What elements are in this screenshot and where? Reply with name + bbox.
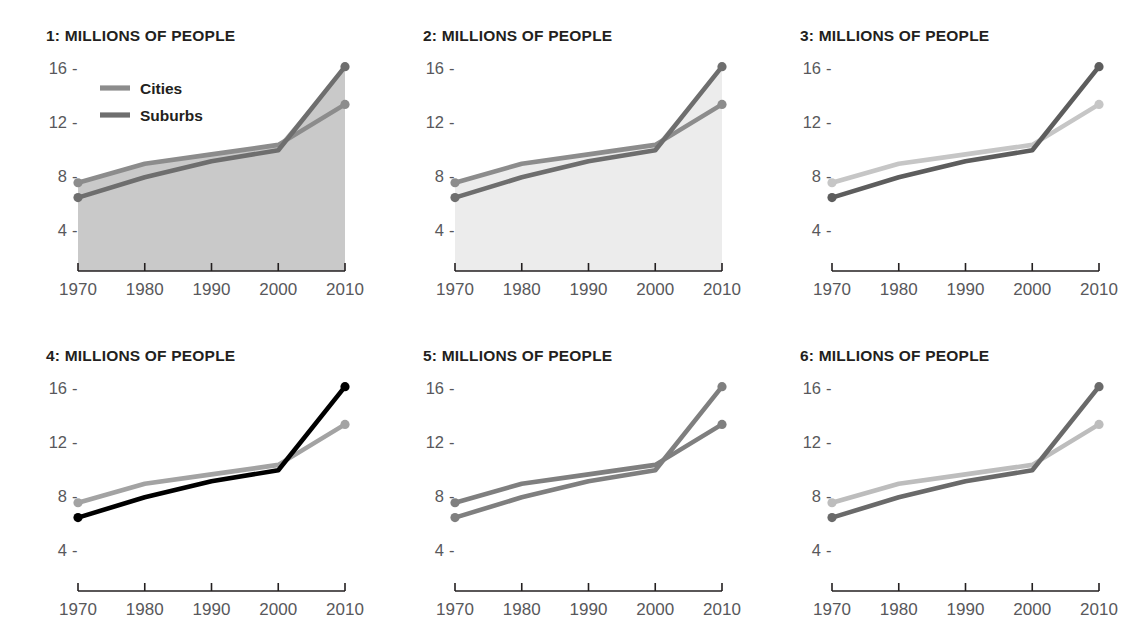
x-tick-label-2010: 2010 bbox=[703, 280, 741, 299]
panel-plot-3: 16-12-8-4-19701980199020002010 bbox=[754, 0, 1131, 320]
series-line-suburbs bbox=[832, 387, 1099, 518]
x-tick-label-1990: 1990 bbox=[193, 280, 231, 299]
data-point-suburbs-2010 bbox=[1094, 62, 1103, 71]
y-tick-dash-4: - bbox=[449, 221, 455, 239]
data-point-suburbs-2010 bbox=[340, 382, 349, 391]
y-tick-dash-12: - bbox=[449, 113, 455, 131]
y-tick-label-16: 16 bbox=[426, 59, 444, 77]
x-tick-label-1990: 1990 bbox=[570, 600, 608, 619]
y-tick-label-8: 8 bbox=[435, 167, 444, 185]
area-fill bbox=[455, 67, 722, 271]
panel-plot-6: 16-12-8-4-19701980199020002010 bbox=[754, 320, 1131, 639]
x-tick-label-1980: 1980 bbox=[126, 600, 164, 619]
x-tick-label-2000: 2000 bbox=[259, 600, 297, 619]
y-tick-label-8: 8 bbox=[435, 487, 444, 505]
y-tick-dash-4: - bbox=[449, 541, 455, 559]
y-tick-label-16: 16 bbox=[426, 379, 444, 397]
y-tick-label-8: 8 bbox=[58, 487, 67, 505]
y-tick-label-4: 4 bbox=[435, 541, 444, 559]
x-tick-label-2010: 2010 bbox=[1080, 600, 1118, 619]
data-point-cities-2010 bbox=[1094, 100, 1103, 109]
legend-label-cities: Cities bbox=[140, 80, 182, 97]
x-tick-label-1990: 1990 bbox=[947, 280, 985, 299]
data-point-suburbs-1970 bbox=[450, 513, 459, 522]
series-line-suburbs bbox=[832, 67, 1099, 198]
y-tick-label-12: 12 bbox=[803, 433, 821, 451]
data-point-cities-2010 bbox=[340, 100, 349, 109]
data-point-suburbs-2010 bbox=[340, 62, 349, 71]
y-tick-label-16: 16 bbox=[49, 59, 67, 77]
y-tick-label-12: 12 bbox=[49, 433, 67, 451]
y-tick-label-4: 4 bbox=[812, 541, 821, 559]
y-tick-dash-16: - bbox=[449, 59, 455, 77]
chart-panel-4: 4: MILLIONS OF PEOPLE16-12-8-4-197019801… bbox=[0, 320, 377, 639]
x-tick-label-1970: 1970 bbox=[813, 600, 851, 619]
panel-plot-5: 16-12-8-4-19701980199020002010 bbox=[377, 320, 754, 639]
y-tick-label-12: 12 bbox=[803, 113, 821, 131]
y-tick-dash-12: - bbox=[72, 113, 78, 131]
data-point-cities-1970 bbox=[73, 498, 82, 507]
panel-plot-4: 16-12-8-4-19701980199020002010 bbox=[0, 320, 377, 639]
x-tick-label-1970: 1970 bbox=[59, 280, 97, 299]
y-tick-label-4: 4 bbox=[435, 221, 444, 239]
data-point-suburbs-2010 bbox=[717, 382, 726, 391]
y-tick-dash-12: - bbox=[826, 433, 832, 451]
series-line-suburbs bbox=[455, 387, 722, 518]
y-tick-dash-16: - bbox=[449, 379, 455, 397]
chart-panel-6: 6: MILLIONS OF PEOPLE16-12-8-4-197019801… bbox=[754, 320, 1131, 639]
data-point-suburbs-1970 bbox=[450, 193, 459, 202]
data-point-suburbs-2010 bbox=[1094, 382, 1103, 391]
data-point-suburbs-1970 bbox=[73, 193, 82, 202]
x-tick-label-1980: 1980 bbox=[126, 280, 164, 299]
small-multiples-grid: 1: MILLIONS OF PEOPLE16-12-8-4-197019801… bbox=[0, 0, 1131, 639]
y-tick-dash-4: - bbox=[72, 221, 78, 239]
data-point-cities-2010 bbox=[717, 100, 726, 109]
y-tick-label-16: 16 bbox=[803, 379, 821, 397]
x-tick-label-1970: 1970 bbox=[813, 280, 851, 299]
y-tick-dash-12: - bbox=[826, 113, 832, 131]
chart-panel-5: 5: MILLIONS OF PEOPLE16-12-8-4-197019801… bbox=[377, 320, 754, 639]
panel-plot-2: 16-12-8-4-19701980199020002010 bbox=[377, 0, 754, 320]
x-tick-label-2000: 2000 bbox=[259, 280, 297, 299]
data-point-cities-1970 bbox=[450, 498, 459, 507]
y-tick-dash-4: - bbox=[826, 221, 832, 239]
y-tick-label-4: 4 bbox=[58, 221, 67, 239]
data-point-cities-1970 bbox=[827, 498, 836, 507]
chart-panel-3: 3: MILLIONS OF PEOPLE16-12-8-4-197019801… bbox=[754, 0, 1131, 320]
y-tick-dash-4: - bbox=[72, 541, 78, 559]
data-point-cities-2010 bbox=[340, 420, 349, 429]
y-tick-dash-12: - bbox=[449, 433, 455, 451]
x-tick-label-2000: 2000 bbox=[636, 600, 674, 619]
x-tick-label-1990: 1990 bbox=[947, 600, 985, 619]
x-tick-label-2010: 2010 bbox=[326, 600, 364, 619]
y-tick-dash-16: - bbox=[72, 59, 78, 77]
chart-panel-2: 2: MILLIONS OF PEOPLE16-12-8-4-197019801… bbox=[377, 0, 754, 320]
x-tick-label-1980: 1980 bbox=[503, 280, 541, 299]
series-line-suburbs bbox=[78, 387, 345, 518]
y-tick-dash-12: - bbox=[72, 433, 78, 451]
y-tick-dash-16: - bbox=[826, 59, 832, 77]
data-point-suburbs-1970 bbox=[73, 513, 82, 522]
area-fill bbox=[78, 67, 345, 271]
y-tick-label-16: 16 bbox=[49, 379, 67, 397]
data-point-cities-1970 bbox=[450, 178, 459, 187]
y-tick-label-8: 8 bbox=[812, 487, 821, 505]
y-tick-dash-16: - bbox=[826, 379, 832, 397]
y-tick-label-4: 4 bbox=[58, 541, 67, 559]
data-point-suburbs-1970 bbox=[827, 193, 836, 202]
data-point-suburbs-1970 bbox=[827, 513, 836, 522]
x-tick-label-1970: 1970 bbox=[59, 600, 97, 619]
y-tick-label-8: 8 bbox=[812, 167, 821, 185]
x-tick-label-1970: 1970 bbox=[436, 600, 474, 619]
y-tick-label-12: 12 bbox=[426, 113, 444, 131]
y-tick-dash-16: - bbox=[72, 379, 78, 397]
x-tick-label-2010: 2010 bbox=[703, 600, 741, 619]
x-tick-label-1980: 1980 bbox=[880, 600, 918, 619]
y-tick-label-4: 4 bbox=[812, 221, 821, 239]
x-tick-label-2000: 2000 bbox=[636, 280, 674, 299]
x-tick-label-2000: 2000 bbox=[1013, 600, 1051, 619]
chart-panel-1: 1: MILLIONS OF PEOPLE16-12-8-4-197019801… bbox=[0, 0, 377, 320]
data-point-cities-1970 bbox=[73, 178, 82, 187]
data-point-cities-2010 bbox=[1094, 420, 1103, 429]
data-point-suburbs-2010 bbox=[717, 62, 726, 71]
